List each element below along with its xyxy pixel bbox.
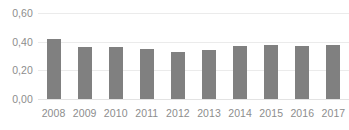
x-slot: 2011: [131, 103, 162, 123]
bar-slot: [256, 13, 287, 99]
bar: [233, 46, 247, 99]
x-tick-label: 2013: [197, 107, 221, 119]
bar: [140, 49, 154, 99]
x-slot: 2014: [225, 103, 256, 123]
x-tick-label: 2014: [228, 107, 252, 119]
x-slot: 2016: [287, 103, 318, 123]
y-tick-label: 0,40: [12, 36, 33, 48]
x-slot: 2015: [256, 103, 287, 123]
plot-area: [38, 13, 349, 99]
y-tick-label: 0,20: [12, 64, 33, 76]
bar: [264, 45, 278, 99]
x-slot: 2017: [318, 103, 349, 123]
bar: [171, 52, 185, 99]
bar-series: [38, 13, 349, 99]
x-tick-label: 2011: [135, 107, 158, 119]
bar-chart: 0,000,200,400,60 20082009201020112012201…: [0, 0, 349, 130]
bar-slot: [131, 13, 162, 99]
bar: [202, 50, 216, 99]
x-tick-label: 2016: [290, 107, 314, 119]
x-axis: 2008200920102011201220132014201520162017: [38, 103, 349, 123]
bar: [295, 46, 309, 99]
gridline: [38, 99, 349, 100]
x-tick-label: 2010: [104, 107, 128, 119]
x-slot: 2009: [69, 103, 100, 123]
bar-slot: [100, 13, 131, 99]
bar-slot: [69, 13, 100, 99]
bar: [78, 47, 92, 99]
y-tick-label: 0,60: [12, 7, 33, 19]
x-slot: 2013: [193, 103, 224, 123]
bar-slot: [38, 13, 69, 99]
x-slot: 2012: [162, 103, 193, 123]
x-tick-label: 2012: [166, 107, 190, 119]
bar-slot: [318, 13, 349, 99]
x-tick-label: 2017: [322, 107, 346, 119]
x-tick-label: 2008: [42, 107, 66, 119]
bar-slot: [162, 13, 193, 99]
bar: [47, 39, 61, 99]
bar-slot: [193, 13, 224, 99]
bar-slot: [225, 13, 256, 99]
bar-slot: [287, 13, 318, 99]
y-tick-label: 0,00: [12, 93, 33, 105]
bar: [326, 45, 340, 99]
x-tick-label: 2015: [259, 107, 283, 119]
x-slot: 2008: [38, 103, 69, 123]
y-axis: 0,000,200,400,60: [0, 0, 36, 130]
x-slot: 2010: [100, 103, 131, 123]
x-tick-label: 2009: [73, 107, 97, 119]
bar: [109, 47, 123, 99]
